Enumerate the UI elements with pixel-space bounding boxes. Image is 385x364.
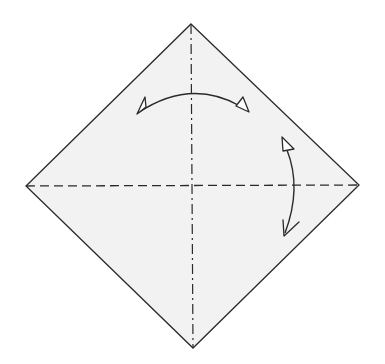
origami-diagram bbox=[0, 0, 385, 364]
